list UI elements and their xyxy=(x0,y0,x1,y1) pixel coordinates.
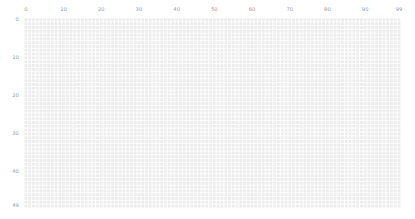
y-tick-label: 0 xyxy=(4,17,19,22)
x-tick-label: 50 xyxy=(211,7,218,12)
x-tick-label: 60 xyxy=(249,7,256,12)
x-tick-label: 90 xyxy=(362,7,369,12)
x-tick-label: 10 xyxy=(60,7,67,12)
heatmap-grid-canvas[interactable] xyxy=(24,18,401,208)
x-tick-label: 30 xyxy=(136,7,143,12)
y-tick-label: 40 xyxy=(4,169,19,174)
x-tick-label: 80 xyxy=(324,7,331,12)
matrix-figure: 010203040506070809099 01020304049 xyxy=(0,0,415,219)
y-tick-label: 10 xyxy=(4,55,19,60)
y-tick-label: 20 xyxy=(4,93,19,98)
x-tick-label: 0 xyxy=(24,7,27,12)
x-tick-label: 99 xyxy=(396,7,403,12)
y-tick-label: 49 xyxy=(4,203,19,208)
x-tick-label: 70 xyxy=(286,7,293,12)
x-tick-label: 40 xyxy=(173,7,180,12)
y-tick-label: 30 xyxy=(4,131,19,136)
heatmap-plot-area[interactable] xyxy=(24,18,401,208)
x-tick-label: 20 xyxy=(98,7,105,12)
